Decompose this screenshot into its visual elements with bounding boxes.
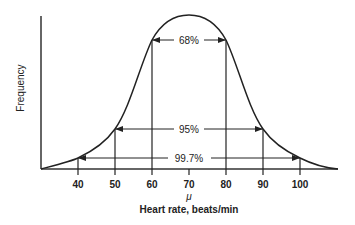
tick-label-80: 80 — [220, 179, 232, 190]
tick-label-70: 70 — [183, 179, 195, 190]
tick-label-60: 60 — [146, 179, 158, 190]
label-68: 68% — [179, 35, 199, 46]
tick-label-90: 90 — [257, 179, 269, 190]
tick-label-40: 40 — [72, 179, 84, 190]
label-95: 95% — [179, 124, 199, 135]
mu-symbol: μ — [185, 191, 192, 202]
bell-curve-chart: 68% 95% 99.7% 40 50 60 70 80 90 100 μ He… — [0, 0, 355, 225]
tick-label-50: 50 — [109, 179, 121, 190]
x-axis-label: Heart rate, beats/min — [140, 204, 239, 215]
tick-label-100: 100 — [292, 179, 309, 190]
y-axis-label: Frequency — [15, 64, 26, 111]
label-99-7: 99.7% — [175, 153, 203, 164]
